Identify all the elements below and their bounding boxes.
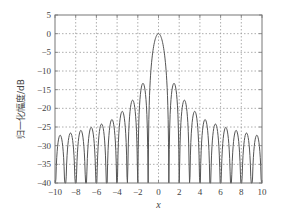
grid-lines [55, 15, 262, 183]
y-tick-label: −15 [37, 85, 52, 95]
y-tick-label: −30 [37, 141, 52, 151]
x-tick-label: −4 [112, 187, 122, 197]
y-tick-label: −35 [37, 159, 52, 169]
x-tick-label: 6 [218, 187, 223, 197]
x-tick-label: 2 [177, 187, 182, 197]
x-tick-label: −2 [133, 187, 143, 197]
x-tick-label: −6 [92, 187, 102, 197]
y-tick-label: 0 [47, 29, 52, 39]
x-axis-ticks: −10−8−6−4−20246810 [48, 15, 267, 197]
y-tick-label: −10 [37, 66, 52, 76]
x-tick-label: −10 [48, 187, 63, 197]
x-axis-label: x [155, 199, 161, 210]
y-axis-label: 归一化幅度/dB [15, 79, 26, 139]
x-tick-label: 0 [156, 187, 161, 197]
y-tick-label: −5 [41, 47, 51, 57]
chart: 50−5−10−15−20−25−30−35−40 −10−8−6−4−2024… [0, 0, 282, 217]
x-tick-label: 8 [239, 187, 244, 197]
y-tick-label: −20 [37, 103, 52, 113]
y-tick-label: 5 [47, 10, 52, 20]
x-tick-label: 10 [258, 187, 268, 197]
y-tick-label: −25 [37, 122, 52, 132]
x-tick-label: 4 [198, 187, 203, 197]
x-tick-label: −8 [71, 187, 81, 197]
